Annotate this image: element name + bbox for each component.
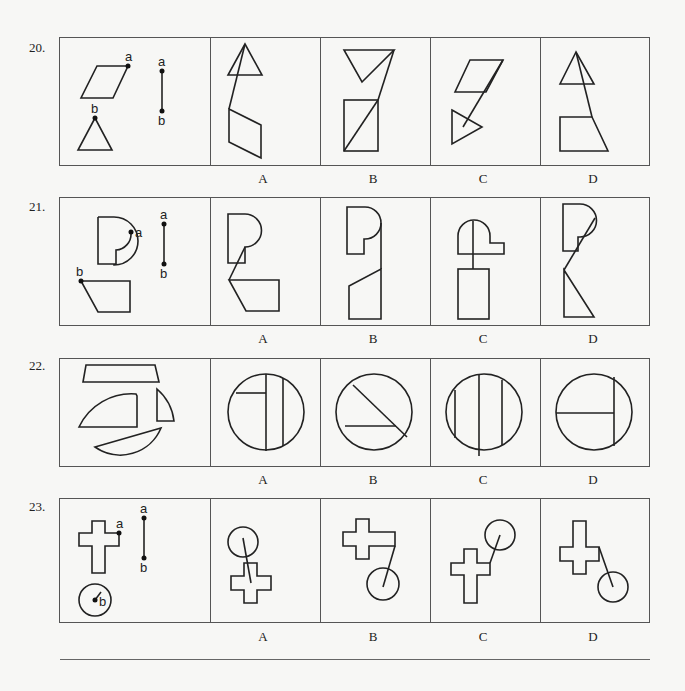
svg-text:a: a: [140, 501, 148, 516]
option-label-a[interactable]: A: [253, 629, 273, 645]
option-a-figure: [228, 527, 271, 603]
option-label-d[interactable]: D: [583, 629, 603, 645]
option-d-figure: [560, 521, 628, 602]
option-c-figure: [451, 520, 515, 603]
stem-segment-ab: a b: [140, 501, 148, 575]
option-label-b[interactable]: B: [363, 629, 383, 645]
option-label-c[interactable]: C: [473, 629, 493, 645]
question-23-figures: a b a b: [0, 0, 685, 691]
svg-text:b: b: [140, 560, 147, 575]
option-b-figure: [343, 519, 399, 600]
svg-text:b: b: [99, 594, 106, 609]
stem-cross: a: [79, 516, 124, 573]
bottom-rule: [60, 659, 650, 660]
stem-circle: b: [79, 584, 111, 616]
svg-text:a: a: [116, 516, 124, 531]
